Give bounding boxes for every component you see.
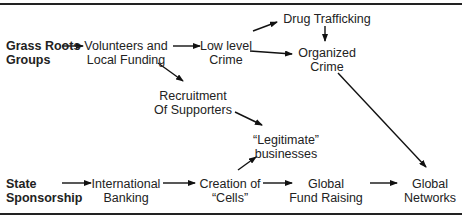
arrow-lowlevel-drug	[253, 22, 277, 31]
label-line: Of Supporters	[154, 103, 232, 117]
source-grass-roots-groups: Grass Roots Groups	[6, 39, 80, 67]
label-line: Groups	[6, 53, 80, 67]
node-recruitment-of-supporters: Recruitment Of Supporters	[154, 89, 232, 117]
label-line: State	[6, 177, 82, 191]
label-line: International	[92, 177, 161, 191]
label-line: Recruitment	[154, 89, 232, 103]
arrow-lowlevel-organized	[250, 51, 292, 54]
label-line: businesses	[253, 147, 319, 161]
arrow-recruitment-legitimate	[235, 112, 262, 125]
label-line: Creation of	[199, 177, 260, 191]
label-line: Global	[404, 177, 456, 191]
label-line: Volunteers and	[84, 39, 167, 53]
arrow-organized-networks	[338, 73, 426, 167]
node-low-level-crime: Low level Crime	[200, 39, 252, 67]
label-line: Organized	[298, 46, 356, 60]
label-line: Crime	[298, 60, 356, 74]
label-line: Fund Raising	[289, 191, 363, 205]
node-organized-crime: Organized Crime	[298, 46, 356, 74]
node-international-banking: International Banking	[92, 177, 161, 205]
label-line: Grass Roots	[6, 39, 80, 53]
node-creation-of-cells: Creation of “Cells”	[199, 177, 260, 205]
label-line: Banking	[92, 191, 161, 205]
node-legitimate-businesses: “Legitimate” businesses	[253, 133, 319, 161]
label-line: Global	[289, 177, 363, 191]
label-line: Networks	[404, 191, 456, 205]
label-line: Drug Trafficking	[283, 12, 370, 26]
label-line: Local Funding	[84, 53, 167, 67]
node-global-networks: Global Networks	[404, 177, 456, 205]
node-drug-trafficking: Drug Trafficking	[283, 12, 370, 26]
label-line: Low level	[200, 39, 252, 53]
node-volunteers-local-funding: Volunteers and Local Funding	[84, 39, 167, 67]
label-line: Crime	[200, 53, 252, 67]
label-line: “Legitimate”	[253, 133, 319, 147]
label-line: Sponsorship	[6, 191, 82, 205]
label-line: “Cells”	[199, 191, 260, 205]
source-state-sponsorship: State Sponsorship	[6, 177, 82, 205]
node-global-fund-raising: Global Fund Raising	[289, 177, 363, 205]
